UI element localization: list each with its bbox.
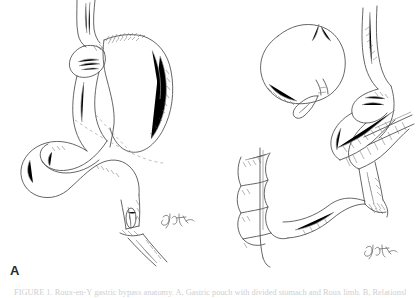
jejunojejunostomy	[120, 195, 143, 236]
gastric-remnant	[352, 86, 394, 138]
gastric-pouch-and-roux-limb	[73, 72, 107, 151]
panel-a: A	[0, 0, 215, 268]
staple-line	[104, 33, 145, 44]
porta-hepatis	[316, 79, 328, 95]
gastroesophageal-junction	[69, 44, 105, 77]
jejunum	[337, 110, 409, 169]
artist-signature	[365, 245, 398, 259]
common-channel	[128, 234, 167, 266]
figure-container: A	[0, 0, 416, 298]
gastric-remnant	[103, 36, 173, 152]
esophagus-structure	[77, 0, 100, 47]
transverse-colon	[237, 153, 288, 248]
panel-a-illustration	[0, 0, 215, 268]
esophagus-structure	[362, 6, 391, 89]
panel-b: B	[215, 0, 416, 268]
liver	[261, 24, 346, 105]
panel-label-a: A	[10, 264, 20, 277]
figure-caption: FIGURE 1. Roux-en-Y gastric bypass anato…	[14, 288, 406, 298]
jejunojejunostomy	[365, 200, 388, 217]
roux-limb	[359, 162, 383, 204]
mesenteric-vessel-vertical	[260, 148, 270, 267]
duodenum-jejunum-loops	[21, 141, 139, 198]
efferent-limb	[283, 198, 365, 238]
panel-b-illustration	[215, 0, 416, 268]
artist-signature	[162, 214, 195, 228]
biliopancreatic-limb-dashed	[75, 115, 163, 163]
gallbladder	[293, 96, 318, 118]
